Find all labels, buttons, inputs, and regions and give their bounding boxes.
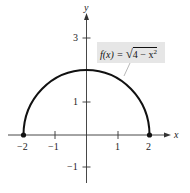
graph-figure: x y −2 −1 1 2 3 1 −1 f(x) = √4 − x2 bbox=[0, 0, 190, 193]
tick-x-2: 2 bbox=[146, 141, 151, 152]
tick-x-minus1: −1 bbox=[48, 141, 59, 152]
endpoint-left bbox=[21, 132, 26, 137]
function-label: f(x) = √4 − x2 bbox=[100, 46, 157, 62]
x-axis-arrow-icon bbox=[164, 133, 171, 138]
tick-y-1: 1 bbox=[73, 96, 78, 107]
tick-x-minus2: −2 bbox=[17, 141, 28, 152]
tick-y-minus1: −1 bbox=[67, 161, 78, 172]
tick-x-1: 1 bbox=[115, 141, 120, 152]
y-axis-arrow-icon bbox=[84, 13, 89, 20]
x-axis-label: x bbox=[173, 129, 179, 140]
tick-y-3: 3 bbox=[73, 32, 78, 43]
y-axis-label: y bbox=[83, 2, 89, 13]
plot-area: x y −2 −1 1 2 3 1 −1 bbox=[0, 0, 190, 193]
endpoint-right bbox=[147, 132, 152, 137]
